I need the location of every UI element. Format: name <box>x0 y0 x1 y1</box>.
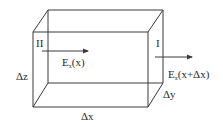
face-label-ii-text: II <box>36 37 43 49</box>
diagram-canvas: II I Ex(x) Ex(x+Δx) Δz Δy Δx <box>0 0 223 127</box>
face-label-i: I <box>156 38 160 49</box>
dx-text: Δx <box>81 110 94 122</box>
field-symbol: E <box>168 68 175 80</box>
depth-edges <box>33 10 163 107</box>
dy-text: Δy <box>163 88 176 100</box>
dimension-label-dx: Δx <box>81 111 94 122</box>
rectangular-volume-element <box>0 0 223 127</box>
dimension-label-dz: Δz <box>16 71 28 82</box>
back-face <box>48 10 163 83</box>
dz-text: Δz <box>16 70 28 82</box>
face-label-ii: II <box>36 38 43 49</box>
face-label-i-text: I <box>156 37 160 49</box>
field-argument: (x+Δx) <box>178 68 210 80</box>
field-argument: (x) <box>72 56 85 68</box>
field-label-ex-x-plus-dx: Ex(x+Δx) <box>168 69 209 80</box>
field-symbol: E <box>62 56 69 68</box>
field-label-ex-x: Ex(x) <box>62 57 85 68</box>
dimension-label-dy: Δy <box>163 89 176 100</box>
front-face <box>33 32 148 107</box>
